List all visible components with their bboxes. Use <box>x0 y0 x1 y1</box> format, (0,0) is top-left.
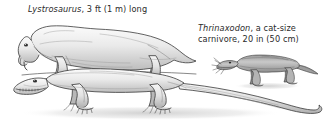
thrinaxodon-illustration <box>212 55 318 86</box>
caption-lystrosaurus-detail: , 3 ft (1 m) long <box>81 4 147 14</box>
caption-thrinaxodon-line2: carnivore, 20 in (50 cm) <box>198 34 299 45</box>
caption-thrinaxodon-detail: , a cat-size <box>250 23 296 33</box>
caption-thrinaxodon-line1: Thrinaxodon, a cat-size <box>198 23 299 34</box>
figure-container: Lystrosaurus, 3 ft (1 m) long Thrinaxodo… <box>0 0 329 128</box>
species-name-lystrosaurus: Lystrosaurus <box>28 4 81 14</box>
caption-thrinaxodon: Thrinaxodon, a cat-size carnivore, 20 in… <box>198 23 299 45</box>
large-reptile-illustration <box>14 69 322 114</box>
illustration-artwork <box>0 0 329 128</box>
species-name-thrinaxodon: Thrinaxodon <box>198 23 250 33</box>
caption-lystrosaurus: Lystrosaurus, 3 ft (1 m) long <box>28 4 147 15</box>
